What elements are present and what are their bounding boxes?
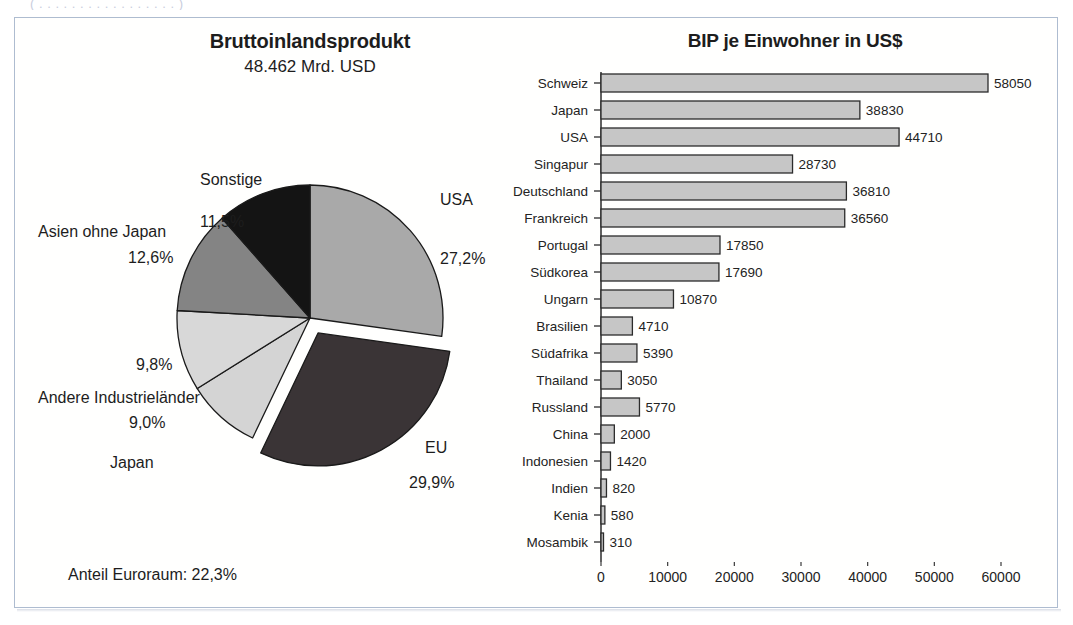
bar-russland xyxy=(601,398,639,416)
bar-chart: Schweiz58050Japan38830USA44710Singapur28… xyxy=(470,62,1050,582)
bar-category-label: Japan xyxy=(551,103,588,118)
bar-indonesien xyxy=(601,452,610,470)
bar-value-label: 28730 xyxy=(799,157,837,172)
bar-china xyxy=(601,425,614,443)
bar-value-label: 2000 xyxy=(620,427,650,442)
bar-value-label: 17850 xyxy=(726,238,764,253)
pie-label-andere-industrielaender: Andere Industrieländer xyxy=(38,366,200,408)
x-tick-label: 60000 xyxy=(982,569,1021,582)
bar-category-label: Ungarn xyxy=(544,292,588,307)
bar-category-label: Indien xyxy=(551,481,588,496)
x-tick-label: 20000 xyxy=(715,569,754,582)
bar-category-label: Frankreich xyxy=(524,211,588,226)
bar-category-label: Schweiz xyxy=(538,76,589,91)
bar-value-label: 36560 xyxy=(851,211,889,226)
bar-schweiz xyxy=(601,74,988,92)
pie-chart-title: Bruttoinlandsprodukt xyxy=(100,30,520,53)
bar-value-label: 36810 xyxy=(852,184,890,199)
bar-s-dafrika xyxy=(601,344,637,362)
bar-category-label: Singapur xyxy=(534,157,589,172)
pie-label-asien-ohne-japan: Asien ohne Japan xyxy=(38,200,166,242)
bar-value-label: 4710 xyxy=(638,319,668,334)
bar-japan xyxy=(601,101,860,119)
bar-usa xyxy=(601,128,899,146)
bar-category-label: Indonesien xyxy=(522,454,588,469)
bar-thailand xyxy=(601,371,621,389)
bar-category-label: Russland xyxy=(532,400,588,415)
bar-category-label: Südafrika xyxy=(531,346,589,361)
pie-slice-usa xyxy=(310,185,443,336)
pie-label-usa-name: USA xyxy=(440,191,473,208)
x-tick-label: 50000 xyxy=(915,569,954,582)
pie-label-japan: Japan xyxy=(110,452,154,473)
bar-value-label: 1420 xyxy=(616,454,646,469)
pie-label-sonstige-name: Sonstige xyxy=(200,171,262,188)
pie-label-eu-value: 29,9% xyxy=(409,472,454,493)
chart-page: ( . . . . . . . . . . . . . . . . . ) Br… xyxy=(0,0,1073,625)
bar-value-label: 5390 xyxy=(643,346,673,361)
bar-category-label: USA xyxy=(560,130,588,145)
bar-value-label: 820 xyxy=(612,481,635,496)
x-tick-label: 10000 xyxy=(648,569,687,582)
pie-label-asien-value: 12,6% xyxy=(128,247,173,268)
bar-value-label: 310 xyxy=(610,535,633,550)
pie-label-sonstige: Sonstige 11,5% xyxy=(200,148,262,232)
pie-label-sonstige-value: 11,5% xyxy=(200,213,244,230)
bar-brasilien xyxy=(601,317,632,335)
frame-shadow xyxy=(17,609,1061,612)
bar-value-label: 44710 xyxy=(905,130,943,145)
bar-category-label: Mosambik xyxy=(526,535,588,550)
bar-portugal xyxy=(601,236,720,254)
bar-category-label: Thailand xyxy=(536,373,588,388)
x-tick-label: 0 xyxy=(597,569,605,582)
bar-frankreich xyxy=(601,209,845,227)
clipped-caption-fragment: ( . . . . . . . . . . . . . . . . . ) xyxy=(30,0,330,10)
bar-value-label: 58050 xyxy=(994,76,1032,91)
bar-value-label: 38830 xyxy=(866,103,904,118)
pie-label-japan-value: 9,0% xyxy=(129,412,165,433)
bar-mosambik xyxy=(601,533,604,551)
pie-label-asien-name: Asien ohne Japan xyxy=(38,223,166,240)
x-tick-label: 40000 xyxy=(848,569,887,582)
bar-chart-title: BIP je Einwohner in US$ xyxy=(560,30,1030,52)
pie-label-eu: EU xyxy=(425,437,447,458)
bar-category-label: Südkorea xyxy=(530,265,588,280)
bar-category-label: Deutschland xyxy=(513,184,588,199)
bar-value-label: 17690 xyxy=(725,265,763,280)
bar-kenia xyxy=(601,506,605,524)
bar-category-label: Kenia xyxy=(553,508,588,523)
bar-category-label: Brasilien xyxy=(536,319,588,334)
pie-label-andere-value: 9,8% xyxy=(136,354,172,375)
bar-value-label: 10870 xyxy=(679,292,717,307)
pie-label-andere-name: Andere Industrieländer xyxy=(38,389,200,406)
bar-s-dkorea xyxy=(601,263,719,281)
eurozone-share-note: Anteil Euroraum: 22,3% xyxy=(68,566,237,584)
bar-value-label: 3050 xyxy=(627,373,657,388)
bar-value-label: 580 xyxy=(611,508,634,523)
bar-deutschland xyxy=(601,182,846,200)
bar-ungarn xyxy=(601,290,673,308)
bar-category-label: China xyxy=(553,427,589,442)
bar-indien xyxy=(601,479,606,497)
bar-category-label: Portugal xyxy=(538,238,588,253)
x-tick-label: 30000 xyxy=(782,569,821,582)
bar-value-label: 5770 xyxy=(645,400,675,415)
pie-chart-subtitle: 48.462 Mrd. USD xyxy=(100,57,520,77)
bar-singapur xyxy=(601,155,793,173)
